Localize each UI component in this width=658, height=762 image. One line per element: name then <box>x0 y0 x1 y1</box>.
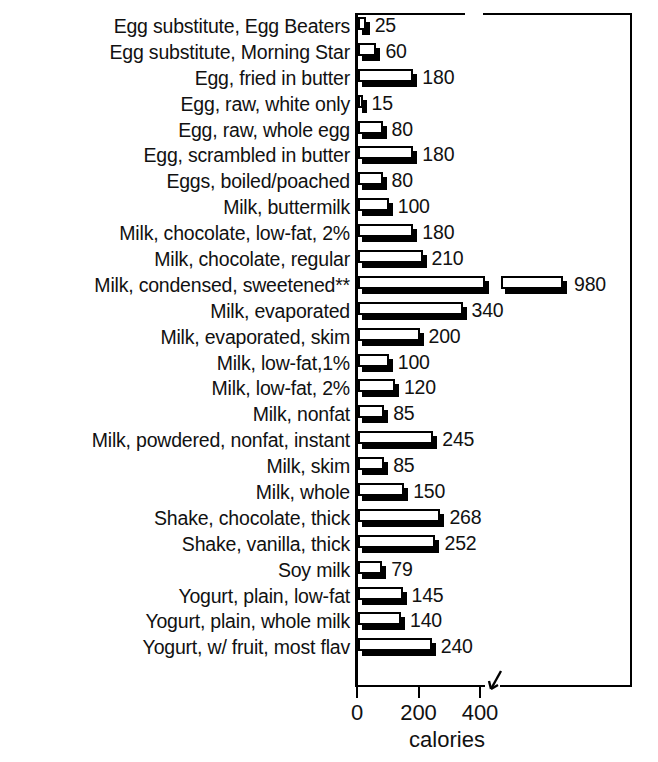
bar-row: Egg substitute, Egg Beaters25 <box>0 14 658 40</box>
bar-row: Milk, chocolate, regular210 <box>0 247 658 273</box>
plot-frame-bottom-right <box>500 685 632 687</box>
bar-value-label: 245 <box>442 428 474 450</box>
bar-row: Egg, raw, whole egg80 <box>0 118 658 144</box>
bar-row: Milk, low-fat,1%100 <box>0 351 658 377</box>
bar-row-label: Soy milk <box>278 559 350 582</box>
bar-row-label: Eggs, boiled/poached <box>166 170 350 193</box>
bar-face <box>358 172 383 185</box>
x-axis-tick-label: 200 <box>388 700 450 726</box>
bar-row-label: Milk, skim <box>266 455 350 478</box>
bar-face <box>358 95 363 108</box>
bar-row-label: Egg, scrambled in butter <box>143 144 350 167</box>
bar-value-label: 85 <box>393 402 414 424</box>
bar-row-label: Egg, fried in butter <box>195 67 350 90</box>
bar-row-label: Egg substitute, Morning Star <box>110 41 350 64</box>
bar-row: Milk, evaporated340 <box>0 299 658 325</box>
bar-row: Egg, scrambled in butter180 <box>0 143 658 169</box>
bar-face <box>358 198 389 211</box>
bar-value-label: 79 <box>391 558 412 580</box>
bar-face <box>358 43 376 56</box>
bar-row: Egg, fried in butter180 <box>0 66 658 92</box>
bar-row: Shake, chocolate, thick268 <box>0 506 658 532</box>
bar-value-label: 80 <box>392 118 413 140</box>
bar-face <box>358 612 401 625</box>
bar-value-label: 15 <box>372 92 393 114</box>
bar-value-label: 180 <box>422 66 454 88</box>
bar-row: Milk, powdered, nonfat, instant245 <box>0 428 658 454</box>
bar-value-label: 60 <box>385 40 406 62</box>
x-axis-tick-label: 400 <box>449 700 511 726</box>
bar-row: Yogurt, w/ fruit, most flav240 <box>0 635 658 661</box>
bar-row: Milk, buttermilk100 <box>0 195 658 221</box>
bar-face <box>358 405 384 418</box>
bar-row-label: Milk, powdered, nonfat, instant <box>92 429 350 452</box>
x-axis-tick <box>418 687 420 698</box>
bar-value-label: 150 <box>413 480 445 502</box>
bar-row: Yogurt, plain, whole milk140 <box>0 609 658 635</box>
bar-value-label: 252 <box>444 532 476 554</box>
bar-row-label: Milk, low-fat,1% <box>217 352 350 375</box>
bar-face <box>358 17 366 30</box>
bar-face <box>358 509 440 522</box>
bar-row: Milk, whole150 <box>0 480 658 506</box>
bar-value-label: 120 <box>404 376 436 398</box>
bar-face <box>358 587 403 600</box>
bar-value-label: 180 <box>422 221 454 243</box>
x-axis-tick <box>356 687 358 698</box>
axis-break-icon <box>487 669 507 691</box>
bar-row: Milk, chocolate, low-fat, 2%180 <box>0 221 658 247</box>
x-axis-tick-label: 0 <box>326 700 388 726</box>
bar-row-label: Yogurt, w/ fruit, most flav <box>143 636 350 659</box>
bar-value-label: 210 <box>432 247 464 269</box>
cropped-chart-title: CALORIES <box>398 0 636 9</box>
bar-value-label: 140 <box>410 609 442 631</box>
bar-row-label: Yogurt, plain, whole milk <box>145 610 350 633</box>
bar-face <box>358 638 432 651</box>
bar-row-label: Milk, low-fat, 2% <box>211 377 350 400</box>
bar-row: Milk, low-fat, 2%120 <box>0 376 658 402</box>
bar-row-label: Egg substitute, Egg Beaters <box>114 15 350 38</box>
bar-row-label: Egg, raw, whole egg <box>178 119 350 142</box>
x-axis-tick <box>479 687 481 698</box>
bar-face <box>358 121 383 134</box>
bar-face-continuation <box>501 276 563 289</box>
bar-value-label: 340 <box>472 299 504 321</box>
bar-row-label: Yogurt, plain, low-fat <box>178 585 350 608</box>
bar-row-label: Shake, vanilla, thick <box>182 533 350 556</box>
bar-face <box>358 302 463 315</box>
bar-row-label: Milk, condensed, sweetened** <box>94 274 350 297</box>
bar-row: Egg substitute, Morning Star60 <box>0 40 658 66</box>
bar-row-label: Milk, nonfat <box>253 403 350 426</box>
bar-row: Egg, raw, white only15 <box>0 92 658 118</box>
bar-face <box>358 535 435 548</box>
bar-face <box>358 561 382 574</box>
bar-row-label: Milk, whole <box>256 481 350 504</box>
bar-value-label: 80 <box>392 169 413 191</box>
bar-row: Yogurt, plain, low-fat145 <box>0 584 658 610</box>
bar-value-label: 200 <box>429 325 461 347</box>
bar-value-label: 100 <box>398 351 430 373</box>
bar-face <box>358 483 404 496</box>
bar-row: Shake, vanilla, thick252 <box>0 532 658 558</box>
bar-value-label: 145 <box>412 584 444 606</box>
bar-shadow <box>362 100 367 113</box>
bar-face <box>358 354 389 367</box>
bar-row: Milk, nonfat85 <box>0 402 658 428</box>
bar-row-label: Egg, raw, white only <box>181 93 350 116</box>
bar-row-label: Shake, chocolate, thick <box>154 507 350 530</box>
bar-value-label: 980 <box>574 273 606 295</box>
bar-row: Eggs, boiled/poached80 <box>0 169 658 195</box>
bar-value-label: 85 <box>393 454 414 476</box>
bar-row-label: Milk, evaporated <box>210 300 350 323</box>
bar-face <box>358 457 384 470</box>
bar-face <box>358 224 413 237</box>
bar-face <box>358 431 433 444</box>
bar-row-label: Milk, chocolate, low-fat, 2% <box>119 222 350 245</box>
bar-value-label: 268 <box>449 506 481 528</box>
bar-row-label: Milk, evaporated, skim <box>160 326 350 349</box>
bar-face <box>358 328 420 341</box>
bar-face <box>358 146 413 159</box>
bar-row: Milk, skim85 <box>0 454 658 480</box>
x-axis-line <box>355 685 485 687</box>
bar-face <box>358 379 395 392</box>
